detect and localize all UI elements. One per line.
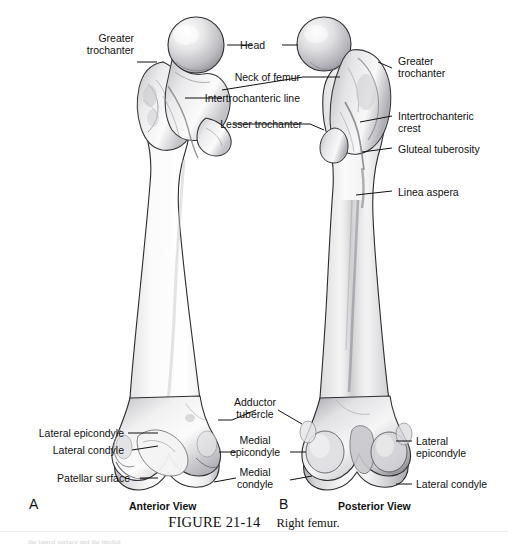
panel-view-name-posterior: Posterior View	[338, 500, 411, 512]
femur-anterior	[112, 17, 231, 490]
label-lateral-condyle-anterior: Lateral condyle	[28, 444, 124, 456]
figure-right-femur: Greater trochanter Head Greater trochant…	[0, 0, 508, 546]
label-patellar-surface: Patellar surface	[30, 472, 130, 484]
label-adductor-tubercle: Adductor tubercle	[222, 396, 288, 420]
label-medial-condyle: Medial condyle	[222, 466, 288, 490]
figure-caption: FIGURE 21-14 Right femur.	[0, 513, 508, 531]
label-linea-aspera: Linea aspera	[398, 186, 484, 198]
page-divider	[0, 531, 508, 532]
label-lateral-epicondyle-posterior: Lateral epicondyle	[416, 435, 486, 459]
label-lesser-trochanter: Lesser trochanter	[210, 118, 302, 130]
panel-letter-b: B	[279, 496, 288, 512]
panel-view-name-anterior: Anterior View	[129, 500, 197, 512]
label-lateral-condyle-posterior: Lateral condyle	[416, 478, 506, 490]
label-lateral-epicondyle-anterior: Lateral epicondyle	[14, 427, 124, 439]
label-greater-trochanter-posterior: Greater trochanter	[398, 55, 480, 79]
figure-caption-number: FIGURE 21-14	[168, 514, 260, 530]
label-neck-of-femur: Neck of femur	[200, 71, 300, 83]
label-gluteal-tuberosity: Gluteal tuberosity	[398, 143, 502, 155]
label-intertrochanteric-crest: Intertrochanteric crest	[398, 110, 498, 134]
panel-letter-a: A	[29, 496, 38, 512]
label-medial-epicondyle: Medial epicondyle	[222, 434, 288, 458]
label-head: Head	[240, 39, 288, 51]
label-greater-trochanter-anterior: Greater trochanter	[52, 32, 134, 56]
page-bleed-text: the lateral surface and the medial	[28, 538, 328, 546]
femur-posterior	[297, 17, 412, 490]
label-intertrochanteric-line: Intertrochanteric line	[186, 92, 300, 104]
figure-caption-text: Right femur.	[277, 516, 340, 530]
